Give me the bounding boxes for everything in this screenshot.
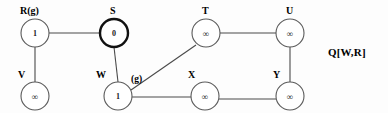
node-value-v: ∞ xyxy=(32,92,38,102)
node-label-y: Y xyxy=(273,70,280,80)
node-label-u: U xyxy=(286,6,293,16)
edge-layer xyxy=(35,33,290,99)
node-value-s: 0 xyxy=(112,29,116,38)
node-label-s: S xyxy=(110,6,116,16)
node-label-x: X xyxy=(188,70,195,80)
node-label-w: W xyxy=(96,70,106,80)
node-value-t: ∞ xyxy=(203,29,209,39)
graph-figure: 10∞∞∞1∞∞ R(g)STUVWXY(g) Q[W,R] xyxy=(0,0,388,113)
node-value-r: 1 xyxy=(33,29,37,38)
node-value-w: 1 xyxy=(116,92,120,101)
node-value-u: ∞ xyxy=(287,29,293,39)
node-value-y: ∞ xyxy=(287,92,293,102)
node-value-x: ∞ xyxy=(202,92,208,102)
edge-label-0: (g) xyxy=(131,75,142,85)
edge-s-w xyxy=(114,47,118,82)
node-label-v: V xyxy=(18,70,25,80)
queue-annotation: Q[W,R] xyxy=(328,46,366,58)
node-label-t: T xyxy=(202,6,209,16)
node-label-r: R(g) xyxy=(20,6,39,16)
